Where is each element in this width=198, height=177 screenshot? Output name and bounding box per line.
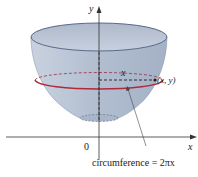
radius-label: x — [120, 67, 126, 78]
point-label: (x, y) — [157, 75, 175, 85]
x-axis-label: x — [187, 141, 193, 152]
origin-label: 0 — [84, 141, 89, 152]
y-axis-arrow-icon — [97, 6, 102, 13]
x-axis-arrow-icon — [190, 135, 197, 140]
caption: circumference = 2πx — [92, 157, 175, 168]
paraboloid-diagram: y x 0 x (x, y) circumference = 2πx — [0, 0, 198, 177]
y-axis-label: y — [88, 3, 94, 14]
